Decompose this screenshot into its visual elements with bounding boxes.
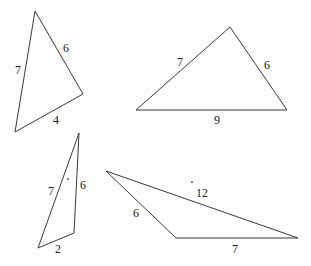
triangle-4-shape [106,171,298,238]
triangle-3-shape [38,133,79,248]
dot-marker [67,178,69,180]
triangle-1-side-label: 4 [53,114,59,126]
triangle-1-side-label: 6 [63,42,69,54]
triangle-4-side-label: 7 [232,243,238,255]
triangles-figure: 7 6 4 7 6 9 7 6 2 6 12 7 [0,0,311,266]
triangle-1-shape [15,11,83,132]
triangle-4-side-label: 12 [196,187,208,199]
triangle-2-side-label: 7 [177,56,183,68]
triangle-3-side-label: 2 [55,243,61,255]
triangle-2-side-label: 6 [264,59,270,71]
triangle-3-side-label: 7 [48,185,54,197]
dot-marker [191,181,193,183]
triangle-2-side-label: 9 [214,114,220,126]
triangles-svg [0,0,311,266]
triangle-4-side-label: 6 [133,207,139,219]
triangle-3-side-label: 6 [80,179,86,191]
triangle-1-side-label: 7 [15,64,21,76]
